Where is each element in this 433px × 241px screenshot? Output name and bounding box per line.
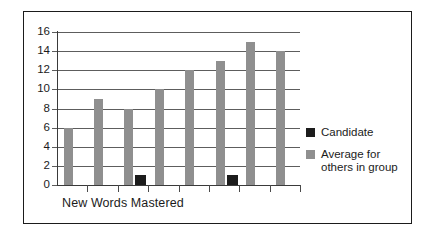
legend-label-candidate: Candidate <box>321 126 373 139</box>
x-tick-mark-4 <box>179 185 180 192</box>
gridline-14 <box>57 51 300 52</box>
legend-swatch-average-icon <box>306 150 315 159</box>
y-tick-label-6: 6 <box>44 122 50 134</box>
x-tick-mark-7 <box>270 185 271 192</box>
legend-label-average-line1: Average for <box>321 148 380 160</box>
gridline-12 <box>57 70 300 71</box>
bar-average-7 <box>246 42 255 185</box>
chart-legend: Candidate Average forothers in group <box>306 126 406 183</box>
bar-average-6 <box>216 61 225 185</box>
y-tick-label-4: 4 <box>44 141 50 153</box>
x-tick-mark-3 <box>148 185 149 192</box>
y-tick-label-10: 10 <box>37 84 50 96</box>
x-tick-mark-8 <box>300 185 301 192</box>
y-tick-label-12: 12 <box>37 65 50 77</box>
gridline-16 <box>57 32 300 33</box>
y-tick-label-8: 8 <box>44 103 50 115</box>
y-axis-line <box>57 31 58 186</box>
bar-average-2 <box>94 99 103 185</box>
bar-candidate-3 <box>135 175 146 185</box>
legend-label-average: Average forothers in group <box>321 148 398 174</box>
legend-label-average-line2: others in group <box>321 161 398 173</box>
plot-area: 0246810121416 <box>57 32 300 185</box>
bar-average-5 <box>185 70 194 185</box>
bar-average-1 <box>64 128 73 185</box>
legend-item-candidate: Candidate <box>306 126 406 139</box>
y-tick-label-2: 2 <box>44 160 50 172</box>
x-tick-mark-5 <box>209 185 210 192</box>
x-tick-mark-2 <box>118 185 119 192</box>
bar-average-4 <box>155 89 164 185</box>
x-axis-title: New Words Mastered <box>62 196 184 210</box>
legend-swatch-candidate-icon <box>306 128 315 137</box>
y-tick-label-14: 14 <box>37 45 50 57</box>
legend-item-average: Average forothers in group <box>306 148 406 174</box>
chart-figure: 0246810121416 New Words Mastered Candida… <box>0 0 433 241</box>
gridline-10 <box>57 89 300 90</box>
x-tick-mark-1 <box>87 185 88 192</box>
bar-candidate-6 <box>227 175 238 185</box>
y-tick-label-0: 0 <box>44 179 50 191</box>
bar-average-8 <box>276 51 285 185</box>
y-tick-label-16: 16 <box>37 26 50 38</box>
x-tick-mark-6 <box>239 185 240 192</box>
bar-average-3 <box>124 109 133 186</box>
